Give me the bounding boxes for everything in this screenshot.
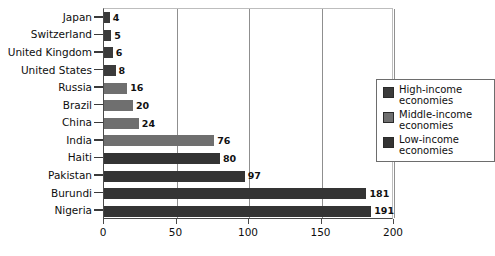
category-tick [94, 139, 103, 141]
x-tick-label-100: 100 [238, 226, 258, 238]
bar-united-states [104, 65, 116, 76]
bar-value-label: 24 [142, 119, 155, 129]
bar-row: 191 [104, 202, 394, 220]
x-tick [103, 219, 104, 224]
bar-china [104, 118, 139, 129]
bar-row: 80 [104, 150, 394, 168]
legend-item-middle: Middle-income economies [383, 110, 489, 131]
category-tick [94, 16, 103, 18]
bar-value-label: 80 [223, 154, 236, 164]
category-label-india: India [66, 131, 92, 149]
bar-united-kingdom [104, 47, 113, 58]
bar-value-label: 8 [119, 66, 126, 76]
legend-label-low: Low-income economies [399, 135, 459, 156]
category-tick [94, 122, 103, 124]
x-tick-label-150: 150 [310, 226, 330, 238]
y-axis-category-labels: JapanSwitzerlandUnited KingdomUnited Sta… [0, 8, 103, 219]
bar-pakistan [104, 171, 245, 182]
x-tick-label-0: 0 [100, 226, 107, 238]
legend-swatch-middle [383, 112, 394, 123]
legend-label-high: High-income economies [399, 85, 462, 106]
legend: High-income economiesMiddle-income econo… [376, 79, 495, 162]
bar-value-label: 20 [136, 101, 149, 111]
category-label-united-kingdom: United Kingdom [8, 43, 92, 61]
bar-row: 6 [104, 44, 394, 62]
bar-switzerland [104, 30, 111, 41]
bar-russia [104, 83, 127, 94]
bar-value-label: 76 [217, 136, 230, 146]
bar-row: 97 [104, 167, 394, 185]
category-label-pakistan: Pakistan [48, 166, 92, 184]
x-tick-label-200: 200 [383, 226, 403, 238]
bar-brazil [104, 100, 133, 111]
category-tick [94, 174, 103, 176]
bar-india [104, 135, 214, 146]
category-label-haiti: Haiti [68, 149, 92, 167]
legend-swatch-high [383, 87, 394, 98]
category-tick [94, 51, 103, 53]
x-tick [393, 219, 394, 224]
category-label-united-states: United States [21, 61, 92, 79]
category-label-nigeria: Nigeria [54, 201, 92, 219]
bar-burundi [104, 188, 366, 199]
legend-label-middle: Middle-income economies [399, 110, 472, 131]
category-label-china: China [62, 114, 92, 132]
x-axis: 050100150200 [103, 219, 393, 249]
bar-value-label: 97 [248, 171, 261, 181]
bar-row: 16 [104, 79, 394, 97]
category-label-switzerland: Switzerland [31, 26, 92, 44]
bar-series: 4568162024768097181191 [104, 9, 392, 218]
bar-row: 24 [104, 115, 394, 133]
bar-row: 20 [104, 97, 394, 115]
bar-value-label: 16 [130, 83, 143, 93]
bar-value-label: 181 [369, 189, 389, 199]
category-label-japan: Japan [63, 8, 92, 26]
bar-value-label: 5 [114, 31, 121, 41]
category-tick [94, 104, 103, 106]
category-tick [94, 69, 103, 71]
plot-area: 4568162024768097181191 High-income econo… [103, 8, 393, 219]
category-tick [94, 86, 103, 88]
category-label-russia: Russia [58, 78, 92, 96]
bar-value-label: 4 [113, 13, 120, 23]
bar-row: 8 [104, 62, 394, 80]
bar-row: 181 [104, 185, 394, 203]
x-tick [248, 219, 249, 224]
category-label-brazil: Brazil [63, 96, 92, 114]
bar-japan [104, 12, 110, 23]
x-tick [321, 219, 322, 224]
bar-value-label: 191 [374, 206, 394, 216]
legend-swatch-low [383, 137, 394, 148]
category-tick [94, 209, 103, 211]
legend-item-low: Low-income economies [383, 135, 489, 156]
bar-row: 4 [104, 9, 394, 27]
bar-haiti [104, 153, 220, 164]
category-label-burundi: Burundi [51, 184, 92, 202]
x-tick-label-50: 50 [169, 226, 182, 238]
bar-nigeria [104, 206, 371, 217]
bar-value-label: 6 [116, 48, 123, 58]
legend-item-high: High-income economies [383, 85, 489, 106]
x-tick [176, 219, 177, 224]
bar-row: 76 [104, 132, 394, 150]
category-tick [94, 192, 103, 194]
category-tick [94, 34, 103, 36]
bar-row: 5 [104, 27, 394, 45]
category-tick [94, 157, 103, 159]
